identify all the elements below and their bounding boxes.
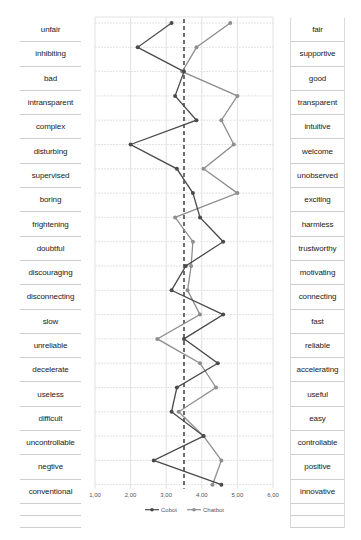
data-point	[155, 337, 159, 341]
data-point	[170, 288, 174, 292]
data-point	[191, 191, 195, 195]
data-point	[202, 434, 206, 438]
data-point	[232, 143, 236, 147]
data-point	[129, 143, 133, 147]
svg-text:Cobot: Cobot	[161, 507, 177, 513]
data-point	[175, 167, 179, 171]
data-point	[170, 410, 174, 414]
x-tick-label: 6,00	[267, 492, 279, 498]
data-point	[228, 21, 232, 25]
data-point	[182, 70, 186, 74]
data-point	[235, 94, 239, 98]
data-point	[198, 215, 202, 219]
data-point	[198, 313, 202, 317]
legend: CobotChatbot	[145, 507, 224, 513]
data-point	[210, 483, 214, 487]
series-chatbot	[155, 21, 239, 487]
legend-item-chatbot: Chatbot	[187, 507, 224, 513]
data-point	[175, 386, 179, 390]
data-point	[219, 483, 223, 487]
series-cobot	[129, 21, 226, 487]
semantic-differential-chart: 1,002,003,004,005,006,00 CobotChatbot	[0, 0, 361, 540]
data-point	[152, 458, 156, 462]
data-point	[235, 191, 239, 195]
data-point	[173, 215, 177, 219]
x-tick-label: 2,00	[125, 492, 137, 498]
x-tick-label: 3,00	[160, 492, 172, 498]
data-point	[173, 94, 177, 98]
data-point	[182, 337, 186, 341]
legend-item-cobot: Cobot	[145, 507, 177, 513]
x-tick-label: 5,00	[232, 492, 244, 498]
data-point	[221, 240, 225, 244]
data-point	[202, 167, 206, 171]
data-point	[136, 45, 140, 49]
data-point	[170, 21, 174, 25]
svg-text:Chatbot: Chatbot	[203, 507, 224, 513]
data-point	[186, 288, 190, 292]
data-point	[198, 361, 202, 365]
data-point	[219, 118, 223, 122]
data-point	[184, 264, 188, 268]
data-point	[221, 313, 225, 317]
data-point	[189, 264, 193, 268]
data-point	[191, 240, 195, 244]
x-tick-label: 4,00	[196, 492, 208, 498]
x-axis-ticks: 1,002,003,004,005,006,00	[89, 492, 279, 498]
data-point	[177, 410, 181, 414]
data-point	[219, 458, 223, 462]
data-point	[194, 118, 198, 122]
data-point	[216, 361, 220, 365]
x-tick-label: 1,00	[89, 492, 101, 498]
data-point	[214, 386, 218, 390]
data-point	[194, 45, 198, 49]
